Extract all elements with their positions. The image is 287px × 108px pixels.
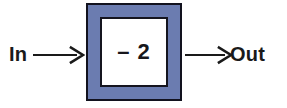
right-arrow-icon [185,44,233,66]
function-box-inner: – 2 [100,17,168,87]
function-box: – 2 [86,3,182,101]
function-rule-text: – 2 [117,41,151,63]
output-label: Out [230,44,265,64]
function-machine-diagram: In – 2 Out [0,0,287,108]
right-arrow-icon [33,44,85,66]
input-label: In [9,44,27,64]
